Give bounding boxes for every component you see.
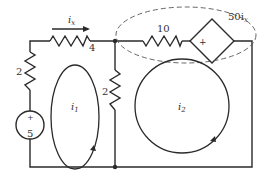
junction-node-bottom	[113, 165, 117, 169]
current-ix-indicator: ix	[52, 14, 90, 32]
resistor-left-label: 2	[16, 66, 22, 77]
resistor-4-ohm: 4	[50, 36, 95, 53]
loop-direction-arrow-icon	[210, 136, 216, 142]
wires	[30, 41, 252, 167]
circuit-diagram: 4 ix 2 2 10 + 50ix + 5 i1	[0, 0, 265, 183]
svg-text:i2: i2	[178, 101, 186, 114]
voltage-source-value: 5	[27, 128, 33, 139]
dashed-enclosure	[116, 7, 256, 63]
independent-voltage-source: + 5	[16, 111, 44, 139]
dependent-source-label: 50i	[228, 11, 244, 22]
resistor-10-label: 10	[157, 23, 170, 34]
dependent-voltage-source: + 50ix	[190, 11, 248, 63]
resistor-10-ohm: 10	[143, 23, 182, 46]
arrow-right-icon	[83, 26, 90, 32]
resistor-middle-label: 2	[102, 86, 108, 97]
dependent-source-plus: +	[199, 37, 207, 47]
mesh-loop-i1: i1	[51, 65, 99, 169]
svg-text:i1: i1	[71, 101, 79, 114]
voltage-source-plus: +	[27, 113, 34, 122]
svg-text:ix: ix	[68, 14, 75, 27]
resistor-left-2-ohm: 2	[16, 52, 35, 90]
svg-text:50ix: 50ix	[228, 11, 248, 24]
resistor-4-label: 4	[89, 42, 95, 53]
mesh-loop-i2: i2	[135, 59, 229, 153]
resistor-middle-2-ohm: 2	[102, 70, 120, 110]
